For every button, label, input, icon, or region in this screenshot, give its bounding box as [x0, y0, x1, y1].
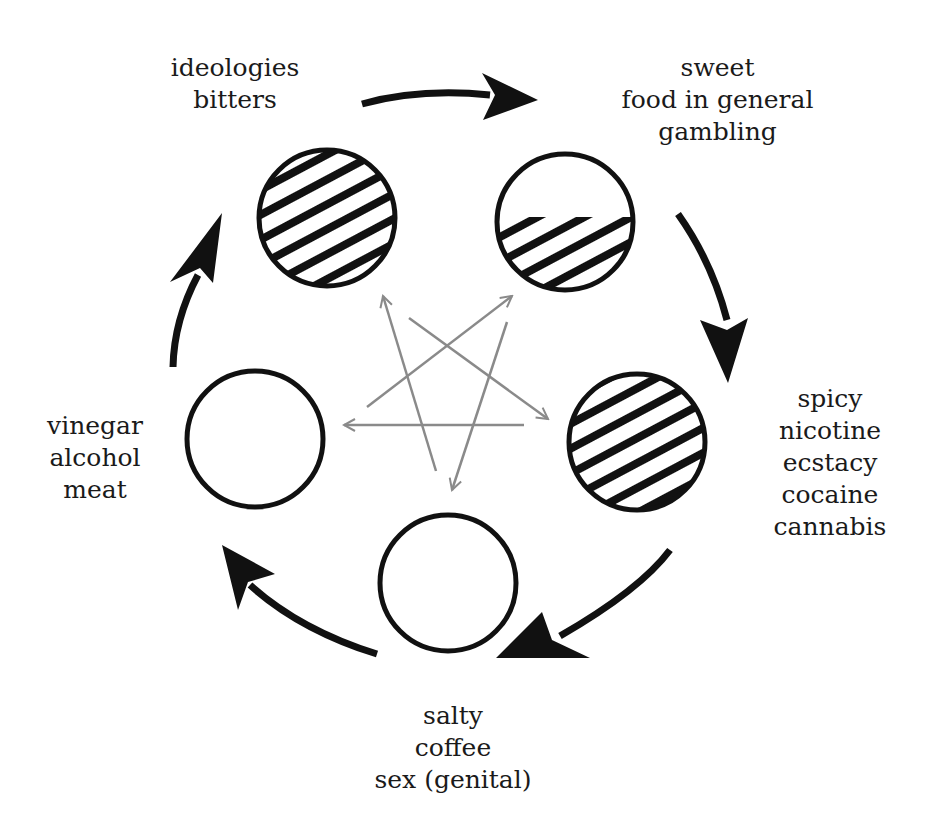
node-bottom — [380, 515, 516, 651]
label-line: ideologies — [160, 52, 310, 84]
label-line: sex (genital) — [368, 764, 538, 796]
node-left — [187, 371, 323, 507]
label-line: gambling — [600, 116, 835, 148]
label-line: nicotine — [760, 415, 900, 447]
label-top-left: ideologies bitters — [160, 52, 310, 116]
label-line: spicy — [760, 383, 900, 415]
node-right — [569, 374, 705, 510]
label-bottom: salty coffee sex (genital) — [368, 700, 538, 796]
label-right: spicy nicotine ecstacy cocaine cannabis — [760, 383, 900, 543]
star-arrow-top-right-to-bottom — [452, 322, 507, 490]
label-top-right: sweet food in general gambling — [600, 52, 835, 148]
label-line: cocaine — [760, 479, 900, 511]
inner-star-arrows — [344, 296, 548, 490]
label-line: alcohol — [30, 442, 160, 474]
outer-arrow-left-to-top-left — [170, 213, 222, 367]
label-left: vinegar alcohol meat — [30, 410, 160, 506]
star-arrow-top-left-to-right — [409, 318, 548, 419]
outer-arrow-right-to-bottom — [496, 550, 670, 658]
label-line: coffee — [368, 732, 538, 764]
outer-arrow-top-left-to-top-right — [362, 73, 538, 120]
outer-arrow-bottom-to-left — [222, 545, 377, 654]
label-line: salty — [368, 700, 538, 732]
star-arrow-bottom-to-top-left — [383, 296, 436, 471]
outer-arrow-top-right-to-right — [678, 214, 748, 383]
label-line: food in general — [600, 84, 835, 116]
node-top-right — [495, 154, 635, 297]
label-line: cannabis — [760, 511, 900, 543]
label-line: bitters — [160, 84, 310, 116]
label-line: ecstacy — [760, 447, 900, 479]
node-top-left — [259, 150, 395, 286]
label-line: vinegar — [30, 410, 160, 442]
label-line: meat — [30, 474, 160, 506]
label-line: sweet — [600, 52, 835, 84]
